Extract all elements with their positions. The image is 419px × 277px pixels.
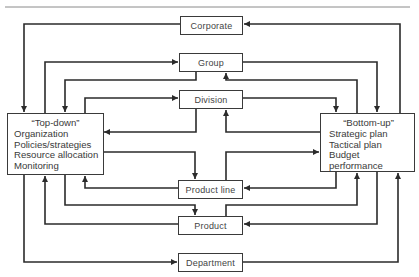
arrowhead-icon <box>172 59 178 65</box>
planning-flow-diagram: Corporate Group Division Product line Pr… <box>0 0 419 277</box>
product-line-to-bottom-up-connector <box>226 149 319 180</box>
level-product-line: Product line <box>178 180 243 199</box>
level-label: Corporate <box>191 21 233 31</box>
top-down-box: “Top-down” Organization Policies/strateg… <box>7 113 104 175</box>
arrowhead-icon <box>374 106 380 112</box>
arrowhead-icon <box>192 173 198 179</box>
connector-line <box>226 152 319 180</box>
arrowhead-icon <box>171 259 177 265</box>
connector-line <box>243 98 336 112</box>
arrowhead-icon <box>21 106 27 112</box>
arrowhead-icon <box>104 129 110 135</box>
level-label: Product <box>194 221 226 231</box>
division-to-top-down-connector <box>104 109 196 135</box>
top-down-to-division-connector <box>85 95 178 113</box>
connector-line <box>104 152 195 179</box>
connector-line <box>244 172 336 188</box>
bottom-up-item: Strategic plan <box>329 129 414 140</box>
arrowhead-icon <box>313 149 319 155</box>
bottom-up-item: Budget performance <box>329 150 414 172</box>
group-to-top-down-connector <box>62 72 196 112</box>
arrowhead-icon <box>244 21 250 27</box>
connector-line <box>104 109 196 132</box>
arrowhead-icon <box>192 209 198 215</box>
arrowhead-icon <box>333 106 339 112</box>
connector-line <box>226 173 357 216</box>
division-to-bottom-up-connector <box>243 98 339 112</box>
connector-line <box>85 98 178 113</box>
arrowhead-icon <box>244 185 250 191</box>
level-label: Product line <box>186 185 236 195</box>
product-to-bottom-up-connector <box>226 173 360 216</box>
level-label: Group <box>198 58 224 68</box>
connector-line <box>226 110 320 132</box>
bottom-up-to-division-connector <box>223 110 320 132</box>
product-line-to-top-down-connector <box>82 176 178 188</box>
arrowhead-icon <box>354 173 360 179</box>
level-group: Group <box>179 53 243 72</box>
level-product: Product <box>178 216 243 235</box>
bottom-up-box: “Bottom-up” Strategic plan Tactical plan… <box>320 113 415 172</box>
arrowhead-icon <box>244 221 250 227</box>
arrowhead-icon <box>172 95 178 101</box>
top-down-to-product-line-connector <box>104 152 198 179</box>
arrowhead-icon <box>42 176 48 182</box>
arrowhead-icon <box>223 73 229 79</box>
arrowhead-icon <box>223 110 229 116</box>
arrowhead-icon <box>82 176 88 182</box>
top-down-item: Monitoring <box>14 161 103 172</box>
bottom-up-to-product-line-connector <box>244 172 336 191</box>
arrowhead-icon <box>395 173 401 179</box>
product-to-top-down-connector <box>42 176 178 224</box>
arrowhead-icon <box>62 106 68 112</box>
connector-line <box>85 176 178 188</box>
level-department: Department <box>178 253 243 272</box>
top-down-item: Organization <box>14 129 103 140</box>
level-label: Division <box>194 95 227 105</box>
level-corporate: Corporate <box>180 16 243 35</box>
group-to-bottom-up-connector <box>243 62 380 112</box>
connector-line <box>243 173 398 262</box>
level-division: Division <box>179 90 243 109</box>
level-label: Department <box>186 258 235 268</box>
